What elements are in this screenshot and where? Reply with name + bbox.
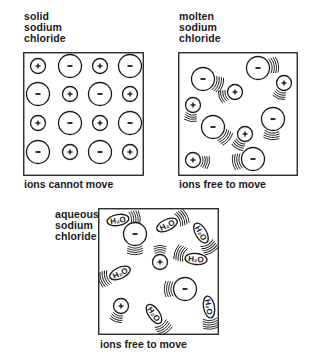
motion-lines-icon bbox=[200, 155, 210, 169]
chloride-ion-icon bbox=[247, 57, 280, 80]
aqueous-caption: ions free to move bbox=[100, 339, 187, 350]
chloride-ion-icon bbox=[124, 223, 147, 255]
solid-panel bbox=[23, 52, 144, 176]
chloride-ion-icon bbox=[119, 55, 142, 78]
chloride-ion-icon bbox=[119, 112, 142, 135]
water-molecule-icon: H₂O bbox=[172, 244, 207, 265]
motion-lines-icon bbox=[268, 57, 279, 74]
sodium-ion-icon bbox=[186, 153, 211, 170]
molten-title: molten sodium chloride bbox=[179, 11, 221, 44]
motion-lines-icon bbox=[184, 112, 198, 122]
chloride-ion-icon bbox=[262, 108, 285, 141]
sodium-ion-icon bbox=[63, 87, 78, 102]
solid-lattice bbox=[23, 52, 144, 176]
molten-panel bbox=[178, 52, 298, 176]
svg-text:H₂O: H₂O bbox=[188, 254, 204, 264]
water-molecule-icon: H₂O bbox=[191, 221, 219, 257]
sodium-ion-icon bbox=[93, 59, 108, 74]
motion-lines-icon bbox=[164, 281, 173, 297]
chloride-ion-icon bbox=[27, 83, 50, 106]
solid-caption: ions cannot move bbox=[24, 179, 113, 190]
sodium-ion-icon bbox=[123, 87, 138, 102]
water-molecule-icon: H₂O bbox=[155, 208, 191, 234]
sodium-ion-icon bbox=[31, 59, 46, 74]
aqueous-title: aqueous sodium chloride bbox=[55, 209, 99, 242]
motion-lines-icon bbox=[202, 318, 219, 330]
chloride-ion-icon bbox=[202, 116, 234, 147]
motion-lines-icon bbox=[98, 270, 112, 288]
sodium-ion-icon bbox=[153, 245, 168, 269]
chloride-ion-icon bbox=[89, 83, 112, 106]
sodium-ion-icon bbox=[217, 85, 242, 104]
molten-caption: ions free to move bbox=[179, 179, 266, 190]
chloride-ion-icon bbox=[192, 68, 226, 94]
chloride-ion-icon bbox=[27, 141, 50, 164]
water-molecule-icon: H₂O bbox=[98, 263, 132, 288]
sodium-ion-icon bbox=[63, 145, 78, 160]
sodium-ion-icon bbox=[272, 76, 291, 101]
sodium-ion-icon bbox=[123, 145, 138, 160]
water-molecule-icon: H₂O bbox=[143, 302, 173, 335]
aqueous-solution: H₂OH₂OH₂OH₂OH₂OH₂OH₂O bbox=[98, 208, 219, 335]
chloride-ion-icon bbox=[231, 148, 264, 171]
motion-lines-icon bbox=[127, 246, 143, 255]
motion-lines-icon bbox=[154, 245, 167, 253]
aqueous-panel: H₂OH₂OH₂OH₂OH₂OH₂OH₂O bbox=[98, 208, 219, 335]
molten-ions bbox=[178, 52, 298, 176]
motion-lines-icon bbox=[231, 153, 242, 170]
sodium-ion-icon bbox=[109, 299, 128, 324]
chloride-ion-icon bbox=[89, 141, 112, 164]
sodium-ion-icon bbox=[31, 116, 46, 131]
chloride-ion-icon bbox=[59, 112, 82, 135]
water-molecule-icon: H₂O bbox=[202, 295, 219, 330]
chloride-ion-icon bbox=[59, 55, 82, 78]
sodium-ion-icon bbox=[184, 98, 201, 123]
motion-lines-icon bbox=[263, 130, 280, 140]
chloride-ion-icon bbox=[164, 278, 196, 301]
sodium-ion-icon bbox=[93, 116, 108, 131]
solid-title: solid sodium chloride bbox=[24, 11, 66, 44]
